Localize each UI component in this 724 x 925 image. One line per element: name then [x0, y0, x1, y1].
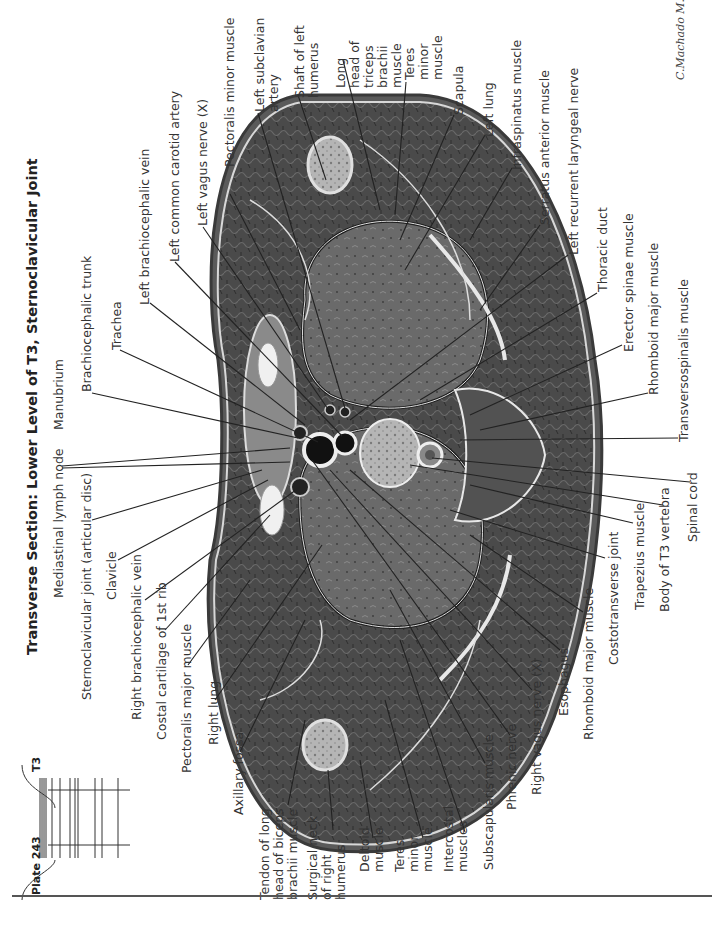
label-left-common-carotid-artery: Left common carotid artery	[168, 91, 182, 262]
label-subscapularis: Subscapularis muscle	[482, 734, 496, 870]
label-left-subclavian-artery: Left subclavian artery	[253, 18, 281, 112]
label-serratus-anterior: Serratus anterior muscle	[538, 70, 552, 225]
label-right-brachiocephalic-vein: Right brachiocephalic vein	[130, 554, 144, 720]
label-rhomboid-major-bottom: Rhomboid major muscle	[582, 588, 596, 740]
label-clavicle: Clavicle	[105, 551, 119, 600]
label-axillary-fossa: Axillary fossa	[232, 732, 246, 815]
label-deltoid: Deltoid muscle	[358, 827, 386, 872]
label-sternoclavicular-joint: Sternoclavicular joint (articular disc)	[80, 473, 94, 700]
label-pectoralis-major: Pectoralis major muscle	[180, 624, 194, 773]
label-surgical-neck-humerus: Surgical neck of right humerus	[306, 816, 348, 900]
label-left-vagus-nerve: Left vagus nerve (X)	[196, 99, 210, 226]
label-esophagus: Esophagus	[557, 648, 571, 716]
label-brachiocephalic-trunk: Brachiocephalic trunk	[80, 256, 94, 392]
label-shaft-left-humerus: Shaft of left humerus	[293, 25, 321, 98]
label-manubrium: Manubrium	[52, 359, 66, 430]
label-trapezius: Trapezius muscle	[633, 503, 647, 610]
page-title: Transverse Section: Lower Level of T3, S…	[24, 158, 40, 655]
label-teres-minor-left: Teres minor muscle	[403, 35, 445, 80]
label-left-recurrent-laryngeal-nerve: Left recurrent laryngeal nerve	[567, 68, 581, 255]
label-scapula: Scapula	[452, 66, 466, 115]
label-right-lung: Right lung	[207, 681, 221, 745]
label-long-head-triceps: Long head of triceps brachii muscle	[334, 41, 404, 88]
label-transversospinalis: Transversospinalis muscle	[677, 279, 691, 442]
level-marker: T3	[30, 757, 43, 772]
label-left-lung: Left lung	[482, 82, 496, 137]
label-left-brachiocephalic-vein: Left brachiocephalic vein	[138, 149, 152, 306]
label-body-t3-vertebra: Body of T3 vertebra	[658, 487, 672, 612]
artist-signature: C.Machado M.D.	[674, 0, 687, 80]
cross-section-illustration	[0, 0, 724, 925]
label-mediastinal-lymph-node: Mediastinal lymph node	[52, 448, 66, 598]
label-infraspinatus: Infraspinatus muscle	[510, 40, 524, 170]
label-intercostal-muscles: Intercostal muscles	[442, 806, 470, 872]
label-erector-spinae: Erector spinae muscle	[622, 213, 636, 352]
label-rhomboid-major-top: Rhomboid major muscle	[647, 243, 661, 395]
label-teres-minor-right: Teres minor muscle	[393, 827, 435, 872]
label-spinal-cord: Spinal cord	[686, 472, 700, 542]
label-costotransverse-joint: Costotransverse joint	[607, 532, 621, 665]
label-costal-cartilage-1st-rib: Costal cartilage of 1st rib	[155, 582, 169, 740]
label-pectoralis-minor: Pectoralis minor muscle	[223, 18, 237, 167]
bottom-rule	[12, 895, 712, 897]
label-tendon-biceps: Tendon of long head of biceps brachii mu…	[258, 808, 300, 900]
plate-number: Plate 243	[30, 836, 43, 895]
label-thoracic-duct: Thoracic duct	[596, 207, 610, 292]
label-trachea: Trachea	[110, 301, 124, 350]
label-phrenic-nerve: Phrenic nerve	[505, 724, 519, 810]
label-right-vagus-nerve: Right vagus nerve (X)	[530, 659, 544, 795]
